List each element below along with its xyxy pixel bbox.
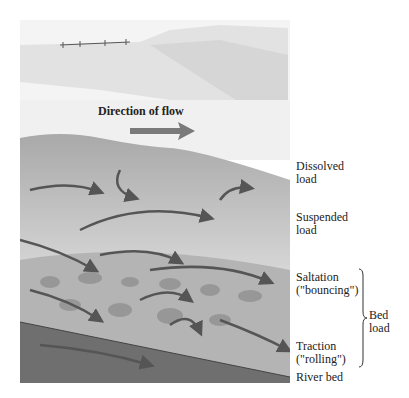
direction-of-flow-label: Direction of flow <box>98 104 184 119</box>
suspended-load-label: Suspended load <box>296 211 348 237</box>
traction-label: Traction ("rolling") <box>296 340 346 366</box>
dissolved-load-label: Dissolved load <box>296 160 344 186</box>
saltation-label: Saltation ("bouncing") <box>296 271 358 297</box>
river-bed-label: River bed <box>296 371 343 384</box>
bed-load-brace-icon <box>358 268 368 368</box>
river-illustration <box>20 20 290 383</box>
bed-load-label: Bed load <box>369 309 390 335</box>
